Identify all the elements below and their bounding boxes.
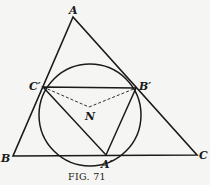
label-point-b-prime: B′ <box>138 80 151 93</box>
label-point-c-prime: C′ <box>29 80 41 93</box>
label-point-a: A <box>68 4 78 17</box>
label-point-n: N <box>84 110 96 123</box>
label-point-c: C <box>199 149 208 162</box>
geometry-diagram: A B C C′ B′ A′ N FIG. 71 <box>0 0 210 185</box>
dashed-segment-c-prime-n <box>43 87 89 107</box>
figure-caption: FIG. 71 <box>68 171 106 182</box>
label-point-a-prime: A′ <box>100 158 113 171</box>
label-point-b: B <box>0 152 10 165</box>
figure-page: A B C C′ B′ A′ N FIG. 71 <box>0 0 210 185</box>
